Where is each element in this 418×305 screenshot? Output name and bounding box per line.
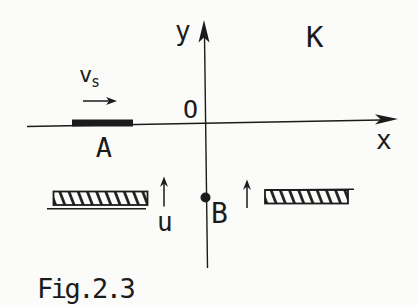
physics-diagram-canvas: x y O K A v s u xyxy=(0,0,418,305)
y-axis-label: y xyxy=(175,16,191,46)
rod-a-label: A xyxy=(96,132,112,163)
velocity-subscript: s xyxy=(91,73,100,91)
figure-caption: Fig.2.3 xyxy=(37,273,135,304)
point-b-dot xyxy=(201,193,211,203)
y-axis-line xyxy=(205,35,208,268)
frame-label: K xyxy=(306,20,324,54)
figure-2-3: x y O K A v s u xyxy=(0,0,418,305)
rod-a-bar xyxy=(72,120,133,127)
right-plate xyxy=(243,180,354,209)
left-plate-bar xyxy=(54,192,148,206)
right-plate-bar xyxy=(265,190,348,204)
origin-label: O xyxy=(183,95,198,124)
rod-a: A v s xyxy=(72,62,133,163)
flow-label: u xyxy=(157,207,173,237)
x-axis-label: x xyxy=(376,125,392,155)
y-axis: y O xyxy=(175,16,210,268)
right-plate-topline xyxy=(265,189,354,190)
point-b-label: B xyxy=(211,197,228,230)
point-b: B xyxy=(201,193,228,231)
left-plate: u xyxy=(47,177,173,238)
